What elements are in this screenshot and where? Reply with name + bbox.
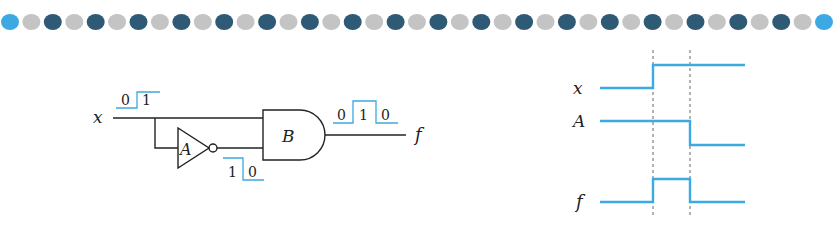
output-wave-0a: 0 [337,107,346,123]
output-waveform: 0 1 0 [333,101,398,123]
input-wave-0: 0 [121,92,130,108]
input-label-x: x [93,107,103,127]
timing-trace-x [600,65,745,88]
timing-label-x: x [573,78,583,98]
timing-diagram: x A f [571,50,745,218]
output-wave-1: 1 [359,107,368,123]
input-waveform: 0 1 [116,92,160,108]
output-label-f: f [413,124,425,145]
and-gate-label: B [281,126,295,146]
output-wave-0b: 0 [381,107,390,123]
timing-label-a: A [571,111,585,131]
branch-wire [155,118,178,148]
timing-label-f: f [574,191,586,212]
input-wave-1: 1 [142,92,151,108]
timing-trace-a [600,121,745,145]
logic-circuit-diagram: x A B f 0 1 1 0 0 1 0 x A f [0,0,833,231]
not-output-waveform: 1 0 [223,158,264,180]
not-wave-0: 0 [248,164,257,180]
not-wave-1: 1 [228,164,237,180]
not-gate-label: A [178,140,192,159]
timing-trace-f [600,179,745,202]
